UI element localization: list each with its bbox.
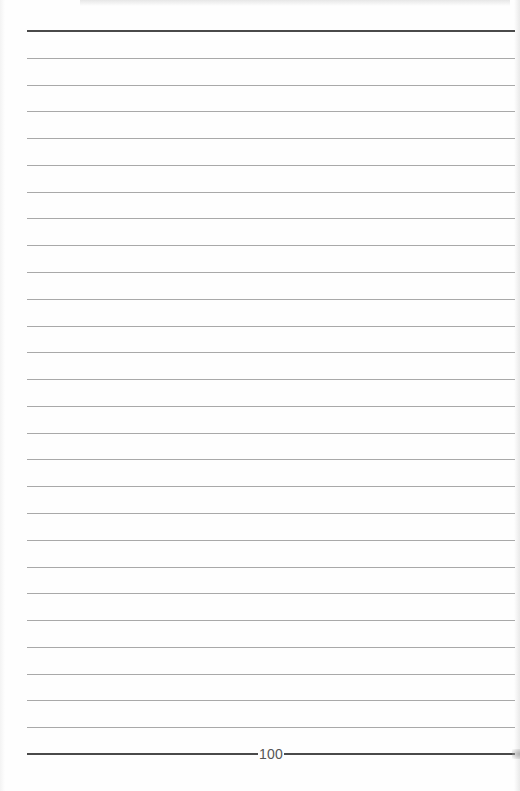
ruled-line [27,138,515,139]
ruled-line [27,379,515,380]
ruled-line [27,727,515,728]
page-edge-mark [512,749,520,759]
ruled-line [27,674,515,675]
bottom-rule-left-segment [27,753,258,755]
ruled-line [27,647,515,648]
ruled-line [27,85,515,86]
page-number: 100 [258,746,284,762]
notebook-page: 100 [0,0,520,791]
ruled-line [27,192,515,193]
page-left-edge-shadow [0,0,5,791]
ruled-line [27,700,515,701]
ruled-line [27,352,515,353]
ruled-line [27,326,515,327]
ruled-line [27,299,515,300]
ruled-line [27,486,515,487]
ruled-line [27,218,515,219]
ruled-line [27,459,515,460]
ruled-line [27,433,515,434]
page-top-edge-shadow [80,0,510,6]
ruled-line [27,111,515,112]
ruled-line [27,620,515,621]
ruled-line [27,513,515,514]
ruled-line [27,245,515,246]
bottom-border-rule: 100 [27,746,515,762]
ruled-line [27,567,515,568]
top-border-rule [27,30,515,32]
ruled-line [27,165,515,166]
ruled-line [27,58,515,59]
bottom-rule-right-segment [284,753,515,755]
page-right-edge-shadow [514,0,520,791]
ruled-line [27,272,515,273]
ruled-line [27,593,515,594]
ruled-line [27,540,515,541]
ruled-line [27,406,515,407]
